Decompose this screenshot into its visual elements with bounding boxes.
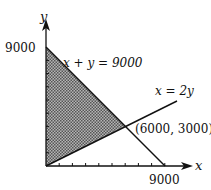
x-axis [46,162,193,170]
equation-label-x-plus-y: x + y = 9000 [63,56,143,70]
feasible-region-diagram: y x 9000 9000 x + y = 9000 x = 2y (6000,… [0,0,211,190]
equation-label-x-eq-2y: x = 2y [155,84,194,98]
y-axis-label: y [39,9,48,24]
x-axis-label: x [195,158,203,173]
intersection-label: (6000, 3000) [135,122,211,136]
y-tick-label-9000: 9000 [5,41,36,55]
x-tick-label-9000: 9000 [149,173,180,187]
